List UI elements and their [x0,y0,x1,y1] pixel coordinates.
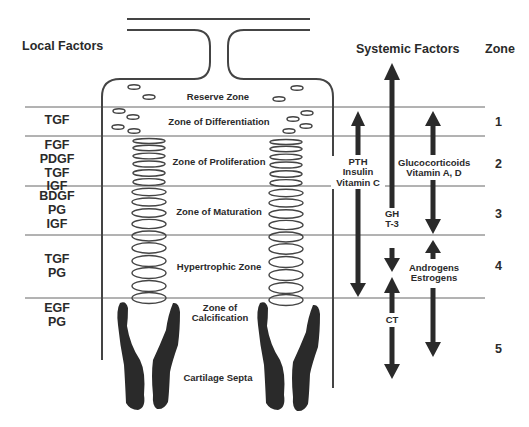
systemic-androgens-label: Androgens Estrogens [403,262,465,285]
zone-number-4: 4 [495,260,502,274]
zone-name-hypertrophic: Hypertrophic Zone [168,262,270,272]
androgens-down-arrow-icon [425,342,441,357]
zone-name-maturation: Zone of Maturation [168,207,270,217]
local-factors-zone-4: TGF PG [22,253,92,281]
epiphysis-outline [102,19,333,388]
zone-name-reserve: Reserve Zone [168,92,268,102]
systemic-pth-label: PTH Insulin Vitamin C [331,156,385,189]
zone-name-differentiation: Zone of Differentiation [163,117,275,127]
pth-down-arrow-icon [350,283,366,297]
local-factors-zone-2: FGF PDGF TGF IGF [22,139,92,194]
androgens-up-arrow-icon [425,240,441,253]
zone-name-calcification: Zone of Calcification [180,303,260,324]
local-factors-zone-5: EGF PG [22,302,92,330]
gh-down-arrow-icon [384,258,400,272]
ct-down-arrow-icon [384,364,400,379]
zone-number-2: 2 [495,158,502,172]
cartilage-septa-label: Cartilage Septa [172,373,264,383]
local-factors-zone-3: BDGF PG IGF [22,190,92,231]
chondrocyte-column-left [132,139,166,304]
chondrocyte-column-right [269,140,303,306]
systemic-factors-header: Systemic Factors [356,43,460,57]
systemic-glucocorticoids-label: Glucocorticoids Vitamin A, D [398,157,470,180]
local-factors-zone-1: TGF [22,114,92,128]
gh-up-arrow-icon [384,63,400,80]
gluco-down-arrow-icon [425,219,441,234]
local-factors-header: Local Factors [22,40,103,54]
systemic-ct-label: CT [383,314,401,326]
zone-name-proliferation: Zone of Proliferation [168,157,270,167]
zone-header: Zone [485,43,515,57]
ct-up-arrow-icon [384,277,400,293]
pth-up-arrow-icon [351,111,365,126]
zone-number-5: 5 [495,343,502,357]
zone-number-1: 1 [495,116,502,130]
systemic-gh-label: GH T-3 [383,208,401,231]
zone-number-3: 3 [495,208,502,222]
gluco-up-arrow-icon [425,111,441,126]
